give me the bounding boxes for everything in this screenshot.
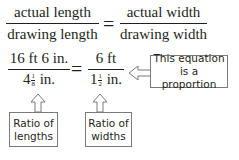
fraction-bar [6,23,99,24]
equals-sign: = [103,13,114,36]
fraction-bar [120,23,207,24]
small-fraction: 12 [98,73,102,88]
callout-proportion: This equationis a proportion [150,55,228,88]
arrow-up-icon [30,93,46,113]
callout-ratio-of-lengths: Ratio oflengths [9,112,58,147]
denominator-drawing-length: drawing length [6,26,99,43]
fraction-actual-over-drawing-length: actual length drawing length [6,4,99,43]
fraction-bar [8,69,70,70]
fraction-bar [88,69,124,70]
denominator-drawing-width: drawing width [120,26,207,43]
equals-sign: = [71,58,82,81]
small-fraction: 18 [31,73,35,88]
numerator-actual-width: actual width [120,4,207,21]
denominator-1-1-2-in: 112 in. [88,71,124,88]
numerator-6ft: 6 ft [88,50,124,67]
numerator-16ft-6in: 16 ft 6 in. [8,50,70,67]
fraction-actual-over-drawing-width: actual width drawing width [120,4,207,43]
fraction-lengths: 16 ft 6 in. 418 in. [8,50,70,88]
denominator-4-1-8-in: 418 in. [8,71,70,88]
arrow-up-icon [92,93,108,113]
arrow-left-icon [128,64,152,82]
callout-ratio-of-widths: Ratio ofwidths [85,112,132,147]
numerator-actual-length: actual length [6,4,99,21]
fraction-widths: 6 ft 112 in. [88,50,124,88]
